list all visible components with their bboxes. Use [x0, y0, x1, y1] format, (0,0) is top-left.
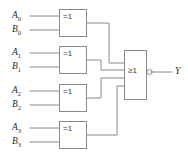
input-label-b2: B2: [12, 100, 21, 111]
wire-xor2-out: [87, 60, 125, 70]
wire-xor1-out: [87, 23, 125, 63]
wire-xor4-out: [87, 86, 125, 135]
input-label-a3: A3: [12, 123, 21, 134]
xor-gate-2-symbol: =1: [63, 50, 72, 58]
input-label-a0: A0: [12, 11, 21, 22]
circuit-wiring: [0, 0, 188, 162]
inversion-bubble-icon: [147, 69, 152, 74]
input-label-b1: B1: [12, 62, 21, 73]
input-label-b3: B3: [12, 137, 21, 148]
input-label-a2: A2: [12, 86, 21, 97]
xor-gate-3-symbol: =1: [63, 88, 72, 96]
output-label-y: Y: [175, 67, 180, 77]
input-label-a1: A1: [12, 48, 21, 59]
input-label-b0: B0: [12, 25, 21, 36]
wire-xor3-out: [87, 78, 125, 98]
xor-gate-4-symbol: =1: [63, 125, 72, 133]
xor-gate-1-symbol: =1: [63, 13, 72, 21]
or-gate-symbol: ≥1: [128, 67, 137, 75]
or-gate-box: [125, 51, 147, 100]
logic-circuit-diagram: A0 B0 A1 B1 A2 B2 A3 B3 =1 =1 =1 =1 ≥1 Y: [0, 0, 188, 162]
